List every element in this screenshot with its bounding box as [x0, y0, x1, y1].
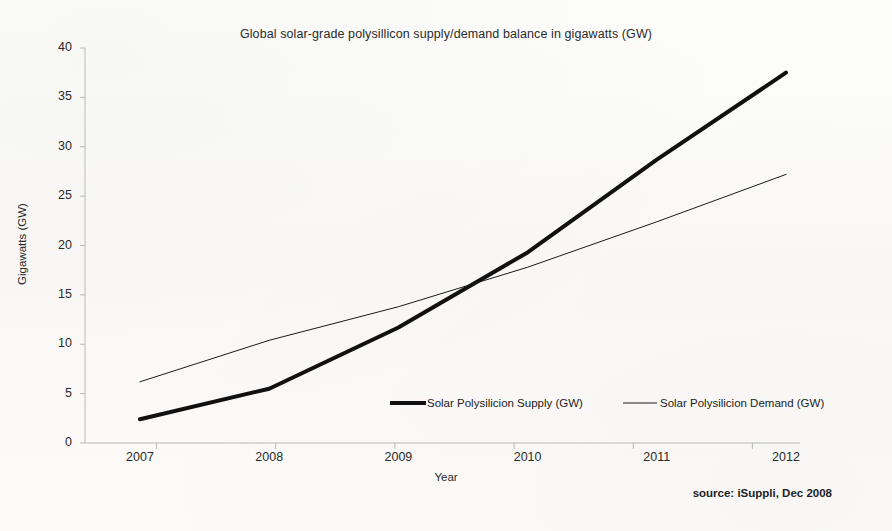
series-line-supply — [140, 73, 786, 420]
y-tick-label: 0 — [38, 435, 72, 449]
chart-figure: Global solar-grade polysillicon supply/d… — [0, 0, 892, 531]
x-tick-label: 2009 — [338, 450, 458, 464]
data-series-group — [140, 73, 786, 420]
y-tick-label: 40 — [38, 40, 72, 54]
y-tick-label: 5 — [38, 386, 72, 400]
x-tick-label: 2008 — [209, 450, 329, 464]
x-tick-label: 2010 — [468, 450, 588, 464]
y-tick-label: 30 — [38, 139, 72, 153]
y-tick-label: 15 — [38, 287, 72, 301]
x-axis — [85, 443, 800, 449]
x-tick-label: 2011 — [597, 450, 717, 464]
y-tick-label: 35 — [38, 89, 72, 103]
y-tick-label: 25 — [38, 188, 72, 202]
y-axis — [80, 48, 85, 443]
y-tick-label: 20 — [38, 238, 72, 252]
series-line-demand — [140, 174, 786, 381]
x-tick-label: 2012 — [726, 450, 846, 464]
y-tick-label: 10 — [38, 336, 72, 350]
x-tick-label: 2007 — [80, 450, 200, 464]
